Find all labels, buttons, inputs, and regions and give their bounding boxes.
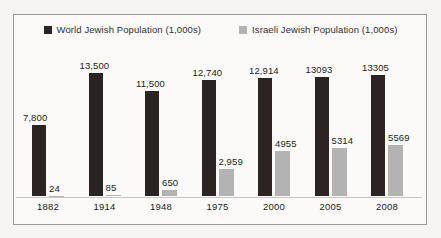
value-label-world-1948: 11,500 — [136, 78, 165, 89]
x-axis-labels: 1882191419481975200020052008 — [14, 201, 426, 219]
value-label-world-1914: 13,500 — [80, 60, 110, 71]
bar-group-1975: 12,7402,959 — [202, 15, 236, 197]
bar-israel-2000[interactable] — [275, 151, 290, 196]
bar-israel-2008[interactable] — [388, 145, 403, 196]
value-label-world-1882: 7,800 — [23, 112, 47, 123]
bar-group-1914: 13,50085 — [89, 15, 123, 197]
bar-world-1975[interactable] — [202, 80, 216, 196]
bar-group-2008: 133055569 — [371, 15, 405, 197]
bar-world-1882[interactable] — [32, 125, 46, 196]
value-label-israel-1975: 2,959 — [219, 156, 243, 167]
bar-group-1948: 11,500650 — [145, 15, 179, 197]
value-label-israel-1914: 85 — [106, 182, 117, 193]
bar-group-1882: 7,80024 — [32, 15, 66, 197]
x-tick-2008: 2008 — [360, 201, 414, 212]
plot-area: 7,8002413,5008511,50065012,7402,95912,91… — [14, 15, 426, 197]
bar-israel-1914[interactable] — [106, 195, 121, 196]
value-label-israel-1948: 650 — [162, 177, 178, 188]
value-label-israel-2008: 5569 — [388, 132, 410, 143]
value-label-world-2000: 12,914 — [249, 65, 279, 76]
value-label-world-2008: 13305 — [362, 62, 389, 73]
value-label-israel-2005: 5314 — [332, 135, 354, 146]
x-tick-1914: 1914 — [78, 201, 132, 212]
value-label-world-1975: 12,740 — [193, 67, 223, 78]
x-tick-1882: 1882 — [21, 201, 75, 212]
bar-world-2000[interactable] — [258, 78, 272, 196]
chart-container: World Jewish Population (1,000s)Israeli … — [0, 0, 441, 238]
bar-group-2000: 12,9144955 — [258, 15, 292, 197]
x-tick-1975: 1975 — [191, 201, 245, 212]
value-label-israel-2000: 4955 — [275, 138, 297, 149]
bar-israel-1975[interactable] — [219, 169, 234, 196]
value-label-world-2005: 13093 — [306, 64, 333, 75]
bar-world-2005[interactable] — [315, 77, 329, 196]
x-tick-2005: 2005 — [304, 201, 358, 212]
bar-group-2005: 130935314 — [315, 15, 349, 197]
value-label-israel-1882: 24 — [49, 183, 60, 194]
x-tick-1948: 1948 — [134, 201, 188, 212]
bar-world-1914[interactable] — [89, 73, 103, 196]
bar-israel-2005[interactable] — [332, 148, 347, 196]
bar-world-1948[interactable] — [145, 91, 159, 196]
x-tick-2000: 2000 — [247, 201, 301, 212]
bar-world-2008[interactable] — [371, 75, 385, 196]
x-axis-line — [16, 197, 422, 198]
bar-israel-1948[interactable] — [162, 190, 177, 196]
